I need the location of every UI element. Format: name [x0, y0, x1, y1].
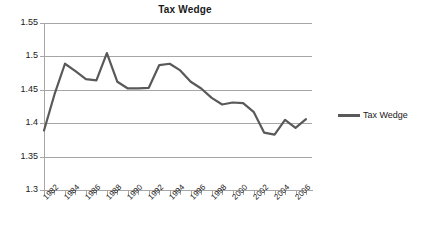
- chart-title: Tax Wedge: [120, 4, 250, 15]
- y-axis-tick-label: 1.5: [12, 51, 38, 60]
- y-axis-tick-label: 1.35: [12, 152, 38, 161]
- plot-area: [44, 23, 312, 190]
- legend-swatch-tax-wedge: [338, 114, 360, 117]
- legend-label-tax-wedge: Tax Wedge: [363, 110, 408, 120]
- y-axis-tick-label: 1.3: [12, 185, 38, 194]
- y-axis-tick-label: 1.4: [12, 118, 38, 127]
- chart-legend: Tax Wedge: [338, 110, 408, 120]
- chart-container: Tax Wedge 1.551.51.451.41.351.3 19821984…: [0, 0, 430, 229]
- y-axis-tick-label: 1.45: [12, 85, 38, 94]
- y-axis-labels: 1.551.51.451.41.351.3: [8, 0, 38, 229]
- series-line-tax-wedge: [44, 23, 312, 190]
- y-axis-tick-label: 1.55: [12, 18, 38, 27]
